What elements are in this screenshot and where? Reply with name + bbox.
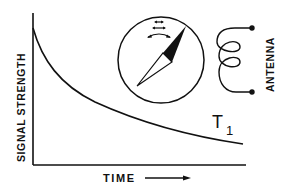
t1-subscript: 1 — [226, 123, 233, 138]
arrow-right-icon — [145, 176, 191, 181]
precession-marks-icon — [147, 21, 171, 39]
t1-label: T 1 — [212, 112, 233, 138]
compass-vector-icon — [118, 17, 204, 103]
t1-main: T — [212, 112, 223, 132]
antenna-coil-icon — [217, 26, 254, 94]
axes — [33, 13, 246, 165]
x-axis-label: TIME — [103, 172, 136, 184]
antenna-label: ANTENNA — [264, 37, 276, 92]
t1-relaxation-diagram: SIGNAL STRENGTH TIME T 1 — [0, 0, 290, 187]
y-axis-label: SIGNAL STRENGTH — [15, 53, 27, 162]
